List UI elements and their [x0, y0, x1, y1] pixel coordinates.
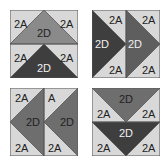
quilt-block-flying-geese-up: 2A 2A 2D 2A 2A 2D [10, 10, 78, 78]
label-left-center: 2D [26, 116, 40, 128]
label-tl: 2A [14, 18, 28, 30]
label-top-center: 2D [119, 93, 133, 105]
label-left-bottom: 2A [109, 64, 123, 76]
label-right-bottom: 2A [48, 142, 62, 154]
label-br: 2A [142, 142, 156, 154]
label-bottom-center: 2D [37, 62, 51, 74]
label-left-top: 2A [15, 92, 29, 104]
label-right-top: 2A [142, 14, 156, 26]
label-tl: 2A [97, 108, 111, 120]
label-right-top: A [48, 92, 56, 104]
label-bottom-center: 2D [119, 127, 133, 139]
label-left-top: 2A [109, 14, 123, 26]
label-right-center: 2D [60, 116, 74, 128]
quilt-block-flying-geese-left: 2A 2D 2A A 2D 2A [10, 88, 78, 156]
label-bl: 2A [14, 52, 28, 64]
label-bl: 2A [97, 142, 111, 154]
quilt-block-flying-geese-right: 2A 2D 2A 2A 2D 2A [92, 10, 160, 78]
label-left-center: 2D [95, 38, 109, 50]
label-top-center: 2D [37, 27, 51, 39]
quilt-block-flying-geese-down: 2D 2A 2A 2D 2A 2A [92, 88, 160, 156]
label-right-center: 2D [128, 38, 142, 50]
label-br: 2A [60, 52, 74, 64]
label-right-bottom: 2A [142, 64, 156, 76]
label-tr: 2A [142, 108, 156, 120]
label-tr: 2A [60, 18, 74, 30]
label-left-bottom: 2A [15, 142, 29, 154]
